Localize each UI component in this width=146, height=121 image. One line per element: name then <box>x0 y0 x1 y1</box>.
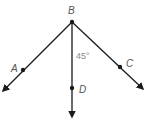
point-a <box>21 68 25 72</box>
vertex-point-b <box>70 20 74 24</box>
label-c: C <box>126 58 134 69</box>
label-a: A <box>10 63 18 74</box>
ray-ba <box>3 22 72 91</box>
label-d: D <box>79 84 86 95</box>
angle-label: 45° <box>76 51 90 61</box>
geometry-diagram: B A D C 45° <box>0 0 146 121</box>
point-c <box>118 65 122 69</box>
label-b: B <box>68 5 75 16</box>
point-d <box>70 86 74 90</box>
